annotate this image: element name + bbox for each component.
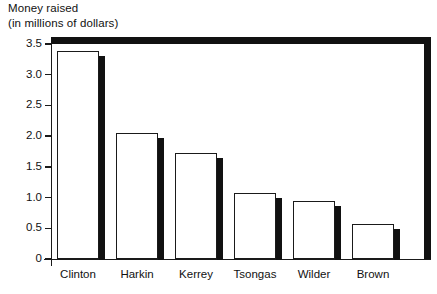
x-axis-label-clinton: Clinton	[60, 268, 96, 281]
bar-tsongas[interactable]	[234, 193, 276, 259]
bar-harkin[interactable]	[116, 133, 158, 259]
x-axis-origin-tick	[51, 260, 52, 266]
x-axis-label-harkin: Harkin	[120, 268, 153, 281]
bar-shadow	[217, 158, 223, 260]
bar-chart: Money raised (in millions of dollars) 3.…	[0, 0, 437, 294]
x-axis-label-tsongas: Tsongas	[234, 268, 277, 281]
x-axis-label-wilder: Wilder	[298, 268, 331, 281]
bar-shadow	[394, 229, 400, 260]
x-axis-label-brown: Brown	[357, 268, 390, 281]
bar-shadow	[99, 56, 105, 260]
bar-clinton[interactable]	[57, 51, 99, 259]
x-axis-label-kerrey: Kerrey	[179, 268, 213, 281]
bar-series	[0, 0, 437, 294]
bar-shadow	[158, 138, 164, 260]
bar-kerrey[interactable]	[175, 153, 217, 259]
bar-brown[interactable]	[352, 224, 394, 259]
bar-shadow	[276, 198, 282, 260]
bar-shadow	[335, 206, 341, 260]
bar-wilder[interactable]	[293, 201, 335, 259]
